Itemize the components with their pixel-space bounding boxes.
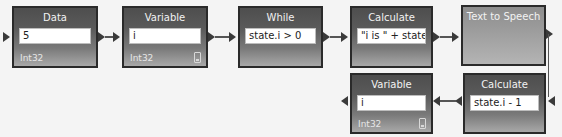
node-title: Calculate [465, 79, 544, 90]
expression-field[interactable]: state.i - 1 [470, 95, 539, 111]
input-port-data[interactable] [3, 32, 10, 42]
input-port-calculate[interactable] [341, 32, 348, 42]
input-port-variable-bottom[interactable] [433, 96, 440, 106]
expression-field[interactable]: "i is " + state.i [357, 28, 426, 44]
node-title: Calculate [352, 12, 431, 23]
node-title: Text to Speech [463, 11, 544, 22]
node-title: Variable [124, 12, 206, 23]
node-text-to-speech[interactable]: Text to Speech [461, 5, 546, 66]
type-label: Int32 [130, 53, 153, 63]
connector-tts-calculate [548, 34, 549, 97]
connector-calculate-variable [440, 100, 456, 102]
node-calculate-bottom[interactable]: Calculate state.i - 1 [463, 73, 546, 134]
connector-calculate-tts [440, 36, 452, 38]
value-field[interactable]: i [357, 95, 426, 111]
connector-data-variable [105, 36, 113, 38]
input-port-while[interactable] [229, 32, 236, 42]
type-label: Int32 [358, 119, 381, 129]
output-port-calculate[interactable] [433, 32, 440, 42]
connector-variable-while [215, 36, 229, 38]
node-title: Data [14, 12, 96, 23]
connector-while-calculate [330, 36, 341, 38]
node-variable-top[interactable]: Variable i Int32 [122, 6, 208, 68]
value-field[interactable]: i [129, 28, 201, 44]
input-port-tts[interactable] [452, 32, 459, 42]
node-title: Variable [352, 79, 431, 90]
node-variable-bottom[interactable]: Variable i Int32 [350, 73, 433, 134]
condition-field[interactable]: state.i > 0 [245, 28, 316, 44]
device-icon[interactable] [419, 118, 426, 129]
value-field[interactable]: 5 [19, 28, 91, 44]
output-port-variable-bottom[interactable] [341, 96, 348, 106]
output-port-while[interactable] [323, 32, 330, 42]
output-port-variable[interactable] [208, 32, 215, 42]
output-port-calculate-bottom[interactable] [455, 96, 462, 106]
input-port-calculate-bottom[interactable] [548, 96, 555, 106]
output-port-data[interactable] [98, 32, 105, 42]
device-icon[interactable] [194, 52, 201, 63]
node-title: While [240, 12, 321, 23]
input-port-variable[interactable] [113, 32, 120, 42]
node-while[interactable]: While state.i > 0 [238, 6, 323, 68]
type-label: Int32 [20, 53, 43, 63]
node-data[interactable]: Data 5 Int32 [12, 6, 98, 68]
node-calculate-top[interactable]: Calculate "i is " + state.i [350, 6, 433, 68]
